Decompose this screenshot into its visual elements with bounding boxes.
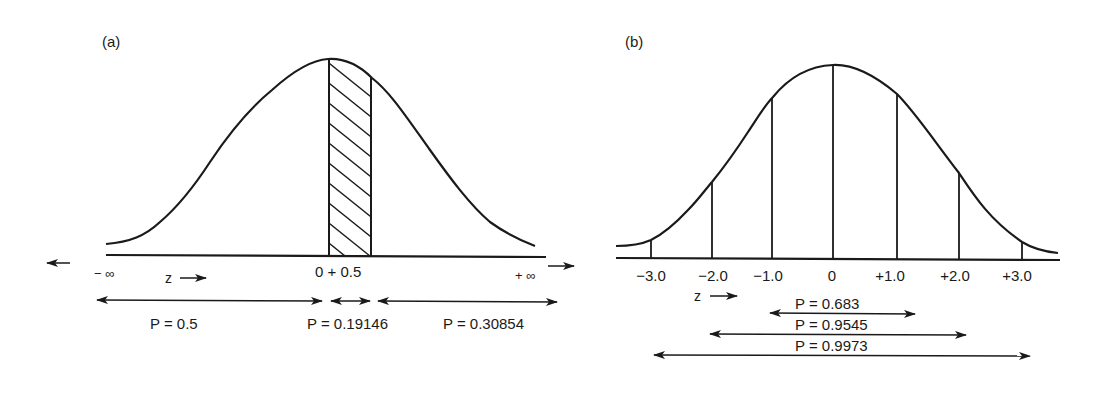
- bell-curve-b: [616, 65, 1058, 253]
- tick-label: −1.0: [753, 267, 783, 284]
- prob-label-0.19146: P = 0.19146: [307, 315, 388, 332]
- pos-infinity-label: + ∞: [515, 268, 535, 283]
- prob-label-0.30854: P = 0.30854: [443, 315, 524, 332]
- tick-labels-b: −3.0 −2.0 −1.0 0 +1.0 +2.0 +3.0: [636, 267, 1032, 284]
- x-axis-a: [106, 255, 546, 257]
- prob-label-0.5: P = 0.5: [150, 315, 198, 332]
- tick-label: −2.0: [698, 267, 728, 284]
- prob-arrow-0.9973: [654, 355, 1030, 356]
- bell-curve-a: [106, 59, 535, 246]
- tick-label: +1.0: [875, 267, 905, 284]
- prob-arrow-0.5: [97, 300, 322, 301]
- neg-infinity-label: − ∞: [94, 266, 114, 281]
- tick-label: +3.0: [1002, 267, 1032, 284]
- z-axis-label-b: z: [694, 288, 701, 304]
- center-label: 0 + 0.5: [315, 263, 361, 280]
- prob-arrow-0.9545: [710, 334, 966, 335]
- prob-label-0.9973: P = 0.9973: [795, 337, 868, 354]
- z-axis-label-a: z: [165, 270, 172, 286]
- x-axis-b: [616, 258, 1060, 260]
- normal-distribution-figure: (a) − ∞: [0, 0, 1107, 399]
- tick-label: −3.0: [636, 267, 666, 284]
- panel-a-label: (a): [102, 33, 120, 50]
- panel-b: (b) −3.0 −2.0 −1.0 0 +1.0 +2.0 +3.0 z P …: [616, 33, 1060, 356]
- prob-arrow-0.683: [770, 313, 915, 314]
- panel-b-label: (b): [625, 33, 643, 50]
- prob-label-0.9545: P = 0.9545: [795, 316, 868, 333]
- tick-label: +2.0: [940, 267, 970, 284]
- panel-a: (a) − ∞: [47, 20, 574, 332]
- prob-arrow-0.30854: [378, 301, 557, 302]
- prob-label-0.683: P = 0.683: [795, 295, 859, 312]
- tick-label: 0: [828, 267, 836, 284]
